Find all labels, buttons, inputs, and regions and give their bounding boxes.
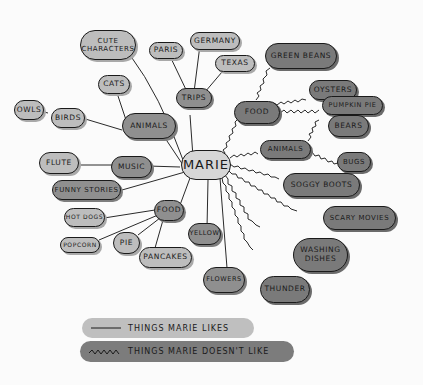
legend-likes-label: THINGS MARIE LIKES: [128, 324, 229, 333]
node-popcorn[interactable]: POPCORN: [60, 237, 100, 253]
node-pumpkin-pie[interactable]: PUMPKIN PIE: [322, 96, 383, 115]
node-soggy-boots[interactable]: SOGGY BOOTS: [283, 173, 360, 197]
node-trips[interactable]: TRIPS: [176, 88, 212, 108]
node-owls[interactable]: OWLS: [14, 100, 44, 120]
node-scary-movies[interactable]: SCARY MOVIES: [323, 206, 396, 230]
node-food-dislike[interactable]: FOOD: [234, 101, 280, 124]
straight-line-icon: [90, 324, 122, 332]
center-node-marie[interactable]: MARIE: [181, 150, 231, 180]
node-washing-dishes[interactable]: WASHING DISHES: [293, 238, 348, 272]
node-paris[interactable]: PARIS: [149, 42, 183, 59]
wavy-line-icon: [88, 347, 122, 357]
node-pancakes[interactable]: PANCAKES: [139, 247, 192, 268]
node-funny-stories[interactable]: FUNNY STORIES: [52, 180, 121, 200]
node-hot-dogs[interactable]: HOT DOGS: [64, 208, 105, 227]
legend-likes: THINGS MARIE LIKES: [82, 318, 254, 338]
node-food-like[interactable]: FOOD: [154, 200, 184, 221]
node-flowers[interactable]: FLOWERS: [203, 267, 245, 293]
node-bugs[interactable]: BUGS: [337, 152, 371, 172]
node-animals-dislike[interactable]: ANIMALS: [260, 140, 311, 159]
node-music[interactable]: MUSIC: [111, 156, 152, 178]
node-yellow[interactable]: YELLOW: [188, 223, 221, 245]
node-texas[interactable]: TEXAS: [215, 55, 255, 72]
node-birds[interactable]: BIRDS: [51, 108, 85, 128]
legend-dislikes-label: THINGS MARIE DOESN'T LIKE: [128, 347, 269, 356]
legend-dislikes: THINGS MARIE DOESN'T LIKE: [80, 341, 294, 362]
node-green-beans[interactable]: GREEN BEANS: [265, 43, 337, 69]
node-cute-characters[interactable]: CUTE CHARACTERS: [80, 30, 136, 60]
node-animals-like[interactable]: ANIMALS: [122, 113, 176, 139]
node-pie[interactable]: PIE: [113, 232, 140, 254]
node-germany[interactable]: GERMANY: [190, 32, 240, 50]
node-thunder[interactable]: THUNDER: [260, 276, 310, 303]
node-bears[interactable]: BEARS: [328, 115, 369, 137]
node-cats[interactable]: CATS: [98, 75, 130, 94]
node-flute[interactable]: FLUTE: [39, 152, 79, 174]
